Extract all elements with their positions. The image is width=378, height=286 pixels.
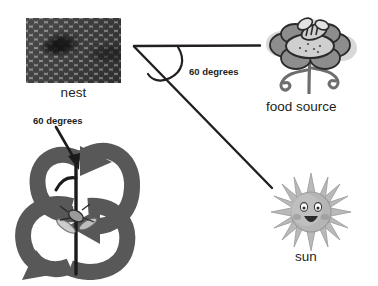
food-source-label: food source bbox=[266, 99, 337, 114]
sun-cheek-left-icon bbox=[293, 214, 301, 220]
dance-angle-pointer-icon bbox=[46, 120, 96, 180]
angle-arc bbox=[148, 47, 182, 81]
sun-icon bbox=[268, 172, 354, 252]
diagram-canvas: nest 60 degrees bbox=[0, 0, 378, 286]
tendril-left-icon bbox=[281, 70, 307, 90]
angle-label-top: 60 degrees bbox=[189, 66, 239, 77]
sun-label: sun bbox=[295, 249, 317, 264]
food-source-icon bbox=[262, 12, 358, 100]
sun-cheek-right-icon bbox=[321, 214, 329, 220]
line-nest-to-food-source bbox=[134, 46, 260, 47]
angle-label-dance: 60 degrees bbox=[33, 115, 83, 126]
tendril-right-icon bbox=[312, 68, 338, 88]
